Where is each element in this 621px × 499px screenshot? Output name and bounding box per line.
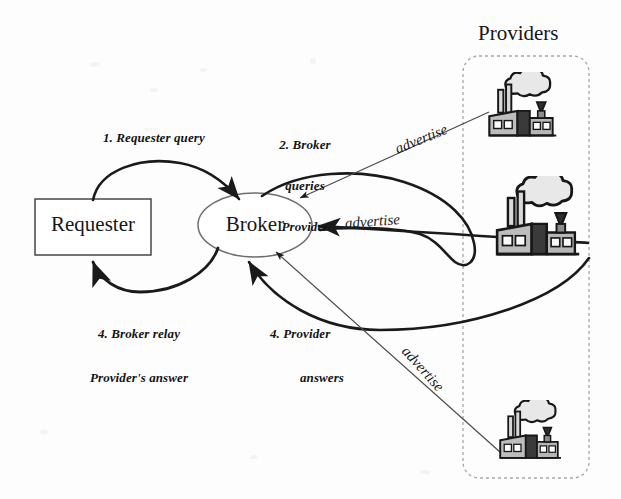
provider-top-factory-icon[interactable] — [489, 69, 556, 136]
edge-label-step2-line3: Provider — [266, 220, 344, 234]
edge-label-step2-line1: 2. Broker — [266, 138, 344, 152]
providers-group-label: Providers — [478, 22, 559, 44]
edge-label-step4a-line2: Provider's answer — [64, 371, 214, 385]
edge-label-step4b-line2: answers — [270, 371, 374, 385]
edge-label-step2-line2: queries — [266, 179, 344, 193]
edge-step1-arrow — [93, 161, 239, 200]
edge-label-step2: 2. Broker queries Provider — [266, 111, 344, 261]
provider-middle-factory-icon[interactable] — [497, 172, 579, 254]
requester-node-label: Requester — [46, 213, 140, 235]
provider-bottom-factory-icon[interactable] — [500, 397, 561, 458]
edge-label-step1: 1. Requester query — [103, 131, 205, 145]
edge-label-step4a: 4. Broker relay Provider's answer — [64, 300, 214, 412]
edge-label-step4a-line1: 4. Broker relay — [64, 327, 214, 341]
diagram-canvas: Providers Requester Broker 1. Requester … — [0, 0, 621, 499]
edge-label-step4b-line1: 4. Provider — [270, 327, 374, 341]
edge-label-step4b: 4. Provider answers — [270, 300, 374, 412]
